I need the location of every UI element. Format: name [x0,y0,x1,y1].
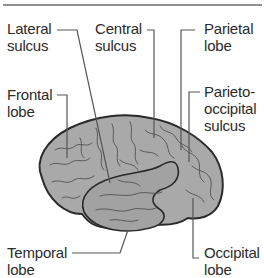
label-parieto-occipital-sulcus: Parieto- occipital sulcus [204,83,256,134]
label-frontal-lobe: Frontal lobe [7,86,52,120]
label-parietal-lobe: Parietal lobe [204,20,253,54]
label-occipital-lobe: Occipital lobe [204,244,260,278]
label-lateral-sulcus: Lateral sulcus [7,20,51,54]
label-central-sulcus: Central sulcus [95,20,142,54]
label-temporal-lobe: Temporal lobe [7,244,67,278]
leader-temporal-lobe [72,230,128,253]
brain-lateral-view-diagram: Lateral sulcus Central sulcus Parietal l… [0,0,264,278]
